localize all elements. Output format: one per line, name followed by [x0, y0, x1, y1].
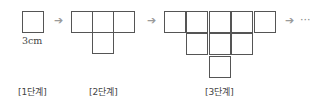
continuation-ellipsis: ··· — [300, 13, 311, 26]
dimension-label: 3cm — [22, 35, 42, 46]
square-cell — [186, 11, 208, 33]
square-cell — [231, 11, 253, 33]
square-cell — [186, 33, 208, 55]
square-cell — [209, 11, 231, 33]
square-cell — [254, 11, 276, 33]
stage-2-label: [2단계] — [89, 85, 118, 98]
stage-3-label: [3단계] — [205, 85, 234, 98]
stage-1-label: [1단계] — [18, 85, 47, 98]
square-cell — [231, 33, 253, 55]
arrow-icon: ➔ — [285, 14, 294, 27]
square-cell — [164, 11, 186, 33]
arrow-icon: ➔ — [147, 14, 156, 27]
square-cell — [92, 32, 114, 54]
square-cell — [92, 11, 114, 33]
square-cell — [209, 56, 231, 78]
square-cell — [113, 11, 135, 33]
arrow-icon: ➔ — [54, 14, 63, 27]
square-cell — [209, 33, 231, 55]
square-cell — [22, 11, 44, 33]
square-cell — [71, 11, 93, 33]
